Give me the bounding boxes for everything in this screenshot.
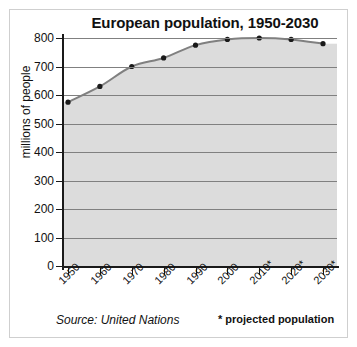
y-axis-tick xyxy=(56,95,64,96)
gridline xyxy=(64,181,337,182)
y-axis-tick xyxy=(56,38,64,39)
gridline xyxy=(64,95,337,96)
y-axis-tick-label: 400 xyxy=(18,146,54,158)
y-axis-tick-label: 200 xyxy=(18,203,54,215)
gridline xyxy=(64,67,337,68)
y-axis-tick xyxy=(56,67,64,68)
source-note: Source: United Nations xyxy=(56,313,179,327)
y-axis-tick xyxy=(56,209,64,210)
y-axis-tick-label: 300 xyxy=(18,175,54,187)
plot-area xyxy=(64,38,337,266)
gridline xyxy=(64,124,337,125)
chart-title: European population, 1950-2030 xyxy=(60,14,350,31)
projection-note: * projected population xyxy=(218,313,334,325)
chart-figure: European population, 1950-2030 millions … xyxy=(0,0,357,347)
gridline xyxy=(64,152,337,153)
y-axis-tick xyxy=(56,124,64,125)
y-axis-tick-label: 500 xyxy=(18,118,54,130)
y-axis-tick-label: 600 xyxy=(18,89,54,101)
gridline xyxy=(64,238,337,239)
y-axis-tick xyxy=(56,266,64,267)
y-axis-tick xyxy=(56,181,64,182)
y-axis-labels: 0100200300400500600700800 xyxy=(14,0,54,347)
y-axis-tick-label: 0 xyxy=(18,260,54,272)
y-axis-tick xyxy=(56,238,64,239)
y-axis-tick-label: 800 xyxy=(18,32,54,44)
y-axis-tick-label: 100 xyxy=(18,232,54,244)
gridline xyxy=(64,209,337,210)
y-axis-tick xyxy=(56,152,64,153)
gridline xyxy=(64,38,337,39)
y-axis-tick-label: 700 xyxy=(18,61,54,73)
